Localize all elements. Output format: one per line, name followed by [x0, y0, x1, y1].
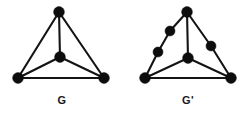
graph-g-prime-label: G' — [182, 94, 194, 106]
graph-g-prime-bottom-left-vertex — [140, 73, 151, 84]
graph-g-center-vertex — [55, 52, 66, 63]
graph-g-prime-subdivision-vertex-upper-right — [206, 41, 216, 51]
graph-g-top-vertex — [54, 7, 65, 18]
vertices-layer — [13, 7, 237, 84]
graph-g-prime-top-vertex — [182, 7, 193, 18]
graph-g-prime-center-vertex — [183, 53, 194, 64]
graph-g-prime-edge-top-center — [187, 12, 188, 58]
graph-diagram-canvas — [0, 0, 249, 117]
graph-g-prime-bottom-right-vertex — [226, 73, 237, 84]
graph-g-prime-subdivision-vertex-upper-left-b — [153, 47, 163, 57]
graph-g-label: G — [58, 94, 67, 106]
graph-g-prime-subdivision-vertex-upper-left-a — [165, 26, 175, 36]
graph-g-prime-edge-bottomleft-center — [145, 58, 188, 78]
graph-g-bottom-left-vertex — [13, 73, 24, 84]
graph-g-prime-edge-top-subright1 — [187, 12, 211, 46]
edges-layer — [18, 12, 231, 78]
graph-figure: G G' — [0, 0, 249, 117]
graph-g-edge-top-center — [59, 12, 60, 57]
graph-g-bottom-right-vertex — [99, 73, 110, 84]
